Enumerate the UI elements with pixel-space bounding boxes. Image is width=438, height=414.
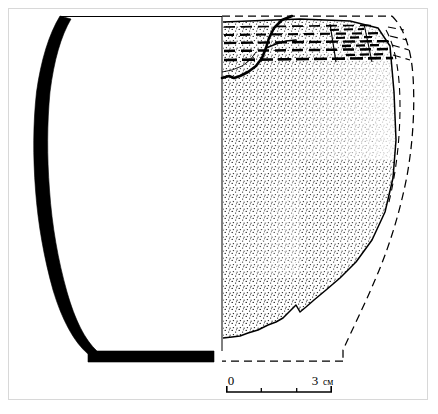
reconstructed-band-3: [392, 45, 409, 50]
scale-label-start: 0: [228, 373, 235, 388]
scale-bar: 0 3 см: [226, 373, 333, 392]
scale-label-end: 3: [312, 373, 319, 388]
decoration-step-a: [330, 29, 364, 30]
vessel-wall-cross-section: [34, 16, 214, 362]
decoration-step-d: [346, 54, 386, 55]
pottery-drawing: 0 3 см: [0, 0, 438, 414]
decoration-step-c: [342, 45, 380, 46]
figure-root: 0 3 см Ceramic vessel: left half shown a…: [0, 0, 438, 414]
vessel-section-profile: [34, 16, 222, 362]
scale-unit-label: см: [323, 377, 333, 387]
reconstructed-band-2: [390, 36, 407, 40]
